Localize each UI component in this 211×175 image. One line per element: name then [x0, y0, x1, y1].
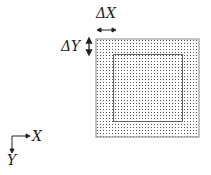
axis-icon — [10, 134, 30, 153]
delta-x-arrow-icon — [97, 28, 116, 32]
delta-y-arrow-icon — [87, 38, 92, 55]
delta-y-label: ΔY — [61, 39, 80, 53]
x-axis-label: X — [32, 129, 42, 143]
diagram-canvas — [0, 0, 211, 175]
y-axis-label: Y — [7, 153, 16, 167]
sampling-grid — [96, 39, 199, 137]
delta-x-label: ΔX — [96, 6, 116, 20]
